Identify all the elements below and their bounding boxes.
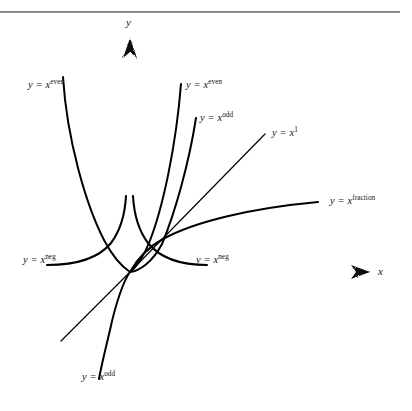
- figure-page: y x y = xeven y = xeven y = xodd y = x1 …: [0, 0, 412, 411]
- curve-label-linear-exponent: 1: [294, 126, 298, 134]
- curves-group: [47, 77, 318, 379]
- curve-label-even-left: y = xeven: [28, 80, 64, 91]
- x-axis-label: x: [378, 265, 383, 277]
- curve-label-neg-left-exponent: neg: [45, 253, 56, 261]
- curve-label-fraction-lhs: y = x: [330, 195, 352, 206]
- curve-label-odd-upper: y = xodd: [200, 113, 233, 124]
- curve-label-linear-lhs: y = x: [272, 127, 294, 138]
- curve-label-odd-upper-exponent: odd: [222, 111, 233, 119]
- curve-neg-left: [47, 196, 126, 265]
- curve-label-even-right: y = xeven: [186, 80, 222, 91]
- curve-label-neg-right: y = xneg: [196, 255, 229, 266]
- curve-label-neg-left: y = xneg: [23, 255, 56, 266]
- curve-label-fraction-exponent: fraction: [352, 194, 375, 202]
- curve-linear: [61, 134, 265, 341]
- curve-label-neg-left-lhs: y = x: [23, 254, 45, 265]
- curve-label-even-left-exponent: even: [50, 78, 64, 86]
- curve-label-odd-lower-exponent: odd: [104, 370, 115, 378]
- curve-label-odd-upper-lhs: y = x: [200, 112, 222, 123]
- curve-even-left: [63, 77, 130, 272]
- curve-label-even-left-lhs: y = x: [28, 79, 50, 90]
- curve-label-neg-right-exponent: neg: [218, 253, 229, 261]
- curve-label-odd-lower-lhs: y = x: [82, 371, 104, 382]
- curve-label-fraction: y = xfraction: [330, 196, 375, 207]
- y-axis-label: y: [126, 16, 131, 28]
- curve-label-even-right-exponent: even: [208, 78, 222, 86]
- axes-group: [8, 38, 370, 390]
- curve-label-odd-lower: y = xodd: [82, 372, 115, 383]
- curve-label-even-right-lhs: y = x: [186, 79, 208, 90]
- curve-label-linear: y = x1: [272, 128, 298, 139]
- curve-label-neg-right-lhs: y = x: [196, 254, 218, 265]
